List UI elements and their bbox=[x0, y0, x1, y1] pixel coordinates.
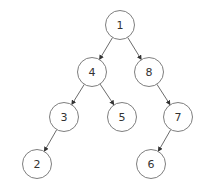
tree-node-2: 2 bbox=[23, 150, 52, 179]
node-label: 7 bbox=[175, 111, 182, 124]
node-label: 1 bbox=[117, 19, 124, 32]
node-label: 5 bbox=[119, 111, 126, 124]
edge-3-to-2 bbox=[44, 130, 57, 152]
edge-4-to-3 bbox=[72, 84, 85, 104]
tree-diagram: 14835726 bbox=[0, 0, 206, 194]
node-label: 4 bbox=[89, 66, 96, 79]
tree-node-7: 7 bbox=[164, 103, 193, 132]
tree-node-8: 8 bbox=[135, 58, 164, 87]
node-label: 2 bbox=[34, 158, 41, 171]
edge-8-to-7 bbox=[157, 84, 170, 105]
tree-node-4: 4 bbox=[78, 58, 107, 87]
tree-node-3: 3 bbox=[50, 103, 79, 132]
edge-7-to-6 bbox=[158, 130, 171, 152]
edge-1-to-8 bbox=[128, 37, 142, 59]
node-label: 8 bbox=[146, 66, 153, 79]
tree-node-5: 5 bbox=[108, 103, 137, 132]
tree-node-6: 6 bbox=[137, 150, 166, 179]
node-label: 3 bbox=[61, 111, 68, 124]
node-label: 6 bbox=[148, 158, 155, 171]
edge-1-to-4 bbox=[99, 37, 112, 59]
edge-4-to-5 bbox=[100, 84, 114, 105]
edges-group bbox=[44, 37, 171, 151]
tree-node-1: 1 bbox=[106, 11, 135, 40]
